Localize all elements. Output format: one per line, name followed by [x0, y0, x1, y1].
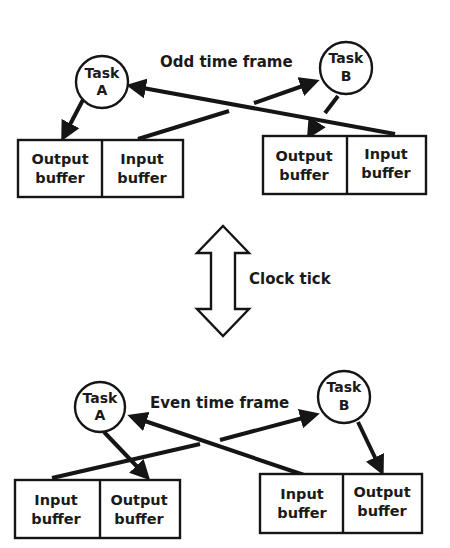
buffer-label: buffer: [279, 167, 329, 183]
task-a-node: Task A: [75, 382, 125, 432]
double-buffer-diagram: Odd time frame Task A Task B Output buff…: [0, 0, 450, 548]
even-time-frame: Even time frame Task A Task B Input buff…: [15, 371, 422, 538]
arrow-taskB-down-segment: [325, 96, 338, 113]
buffer-label: buffer: [31, 511, 81, 527]
buffer-label: buffer: [277, 505, 327, 521]
buffer-label: buffer: [357, 503, 407, 519]
buffer-label: Output: [110, 492, 167, 508]
double-arrow-icon: [197, 226, 249, 336]
buffer-label: Input: [280, 486, 323, 502]
task-b-buffer-pair: Output buffer Input buffer: [263, 136, 426, 194]
clock-tick-label: Clock tick: [249, 270, 332, 288]
arrow-to-output-buffer-right: [310, 124, 316, 134]
task-a-label-line1: Task: [83, 390, 119, 406]
task-a-buffer-pair: Input buffer Output buffer: [15, 480, 180, 538]
task-b-node: Task B: [318, 371, 370, 423]
odd-time-frame: Odd time frame Task A Task B Output buff…: [18, 42, 426, 197]
task-a-label-line2: A: [97, 82, 108, 98]
task-b-label-line1: Task: [327, 379, 363, 395]
task-a-buffer-pair: Output buffer Input buffer: [18, 140, 183, 197]
buffer-label: buffer: [361, 165, 411, 181]
task-b-label-line1: Task: [329, 50, 365, 66]
arrow-to-taskB: [254, 82, 314, 103]
buffer-label: buffer: [114, 511, 164, 527]
odd-frame-title: Odd time frame: [160, 53, 293, 71]
task-b-buffer-pair: Input buffer Output buffer: [260, 474, 422, 533]
task-a-label-line2: A: [95, 407, 106, 423]
buffer-label: Input: [364, 146, 407, 162]
buffer-label: Input: [120, 151, 163, 167]
task-a-node: Task A: [76, 56, 128, 108]
arrow-taskA-to-output-buffer: [104, 432, 146, 476]
arrow-input-buffer-left-segment: [138, 111, 229, 139]
arrow-to-taskB: [220, 415, 314, 440]
task-b-label-line2: B: [339, 397, 350, 413]
task-a-label-line1: Task: [85, 65, 121, 81]
buffer-label: Output: [353, 484, 410, 500]
arrow-input-buffer-left-segment: [52, 444, 200, 478]
buffer-label: buffer: [35, 170, 85, 186]
buffer-label: Output: [31, 151, 88, 167]
buffer-label: Input: [34, 492, 77, 508]
buffer-label: Output: [275, 148, 332, 164]
even-frame-title: Even time frame: [150, 394, 289, 412]
buffer-label: buffer: [117, 170, 167, 186]
arrow-taskB-to-output-buffer: [358, 422, 381, 470]
task-b-node: Task B: [320, 42, 372, 94]
task-b-label-line2: B: [341, 68, 352, 84]
clock-tick: Clock tick: [197, 226, 332, 336]
